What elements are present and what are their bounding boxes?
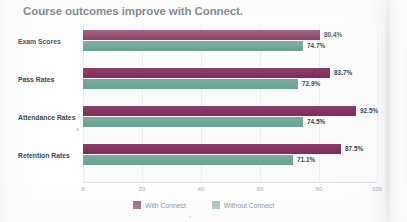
- bar-without-connect-retention-rates[interactable]: [83, 155, 293, 165]
- category-label-retention-rates: Retention Rates: [18, 152, 80, 159]
- chart-title: Course outcomes improve with Connect.: [23, 5, 243, 17]
- bar-value-with-connect-pass-rates: 83.7%: [334, 68, 352, 78]
- bar-with-connect-pass-rates[interactable]: [83, 68, 330, 78]
- x-tick-label-60: 60: [257, 185, 264, 192]
- bar-value-without-connect-pass-rates: 72.9%: [302, 79, 320, 89]
- bar-with-connect-exam-scores[interactable]: [83, 30, 320, 40]
- bar-with-connect-attendance-rates[interactable]: [83, 106, 356, 116]
- x-axis-line: [83, 182, 378, 183]
- bar-group-exam-scores: 80.4% 74.7%: [83, 30, 378, 54]
- bar-without-connect-exam-scores[interactable]: [83, 41, 303, 51]
- legend-swatch-with-connect: [133, 201, 141, 209]
- bar-group-pass-rates: 83.7% 72.9%: [83, 68, 378, 92]
- category-label-pass-rates: Pass Rates: [18, 76, 80, 83]
- bar-value-without-connect-retention-rates: 71.1%: [297, 155, 315, 165]
- x-tick-label-40: 40: [198, 185, 205, 192]
- bar-group-attendance-rates: 92.5% 74.5%: [83, 106, 378, 130]
- category-label-exam-scores: Exam Scores: [18, 38, 80, 45]
- category-label-attendance-rates: Attendance Rates: [18, 114, 80, 121]
- bar-without-connect-pass-rates[interactable]: [83, 79, 298, 89]
- legend-item-with-connect[interactable]: With Connect: [133, 201, 186, 209]
- bar-value-without-connect-attendance-rates: 74.5%: [307, 117, 325, 127]
- bar-with-connect-retention-rates[interactable]: [83, 144, 341, 154]
- scan-speck: [76, 128, 79, 131]
- legend-swatch-without-connect: [212, 201, 220, 209]
- bar-value-without-connect-exam-scores: 74.7%: [307, 41, 325, 51]
- scan-speck: [189, 216, 191, 218]
- x-tick-label-80: 80: [316, 185, 323, 192]
- bar-value-with-connect-attendance-rates: 92.5%: [360, 106, 378, 116]
- legend-label-with-connect: With Connect: [145, 202, 186, 209]
- bar-without-connect-attendance-rates[interactable]: [83, 117, 303, 127]
- bar-value-with-connect-exam-scores: 80.4%: [324, 30, 342, 40]
- plot-area: 80.4% 74.7% 83.7% 72.9% 92.5% 74.5% 87.5…: [83, 24, 378, 182]
- legend-label-without-connect: Without Connect: [224, 202, 274, 209]
- chart-legend: With Connect Without Connect: [0, 201, 407, 209]
- legend-item-without-connect[interactable]: Without Connect: [212, 201, 274, 209]
- x-tick-label-100: 100: [372, 185, 382, 192]
- x-tick-label-0: 0: [81, 185, 84, 192]
- x-tick-label-20: 20: [139, 185, 146, 192]
- bar-group-retention-rates: 87.5% 71.1%: [83, 144, 378, 168]
- bar-value-with-connect-retention-rates: 87.5%: [345, 144, 363, 154]
